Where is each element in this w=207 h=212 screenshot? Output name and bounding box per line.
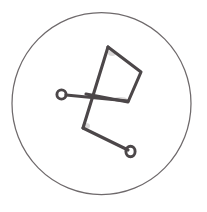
zigzag-tail [83, 128, 128, 150]
apex-down-left-limb [83, 47, 108, 128]
pencil-stroke-layer [66, 47, 141, 150]
sketch-drawing [0, 0, 207, 212]
left-terminal-circle [57, 90, 66, 99]
lower-right-terminal-circle [126, 146, 135, 156]
sketch-canvas [0, 0, 207, 212]
enclosing-circle [12, 13, 191, 195]
